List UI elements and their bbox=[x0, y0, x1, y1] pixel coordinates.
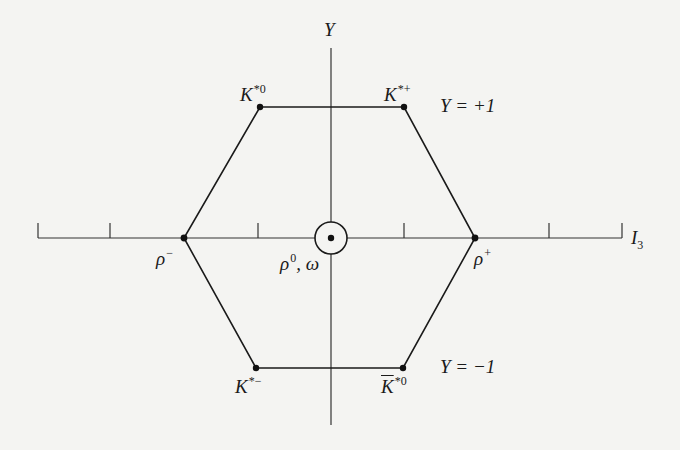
label-k-star-0: K*0 bbox=[240, 83, 266, 104]
i3-axis-label: I3 bbox=[631, 228, 643, 251]
label-k-bar-star-0: K*0 bbox=[381, 375, 407, 396]
octet-diagram: Y I3 K*0 K*+ ρ− ρ+ ρ0, ω K*− K*0 Y = +1 … bbox=[0, 0, 680, 450]
y-axis-label: Y bbox=[324, 20, 335, 39]
label-rho-minus: ρ− bbox=[156, 247, 173, 268]
diagram-graphics bbox=[0, 0, 680, 450]
label-k-star-minus: K*− bbox=[235, 375, 261, 396]
row-label-y-plus-1: Y = +1 bbox=[440, 96, 495, 115]
label-k-star-plus: K*+ bbox=[384, 83, 410, 104]
label-rho0-omega: ρ0, ω bbox=[280, 252, 319, 273]
label-rho-plus: ρ+ bbox=[474, 247, 491, 268]
row-label-y-minus-1: Y = −1 bbox=[440, 357, 495, 376]
